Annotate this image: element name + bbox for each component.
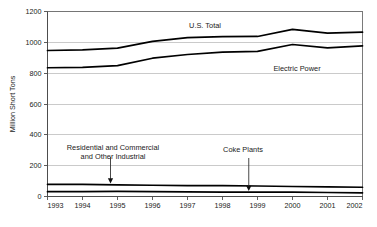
x-tick-label-1993: 1993: [48, 201, 64, 210]
y-tick-label-1200: 1200: [26, 7, 42, 16]
y-tick-label-600: 600: [30, 100, 42, 109]
y-tick-label-200: 200: [30, 161, 42, 170]
annotation-coke-plants-line1: Coke Plants: [223, 145, 263, 154]
annotation-residential-commercial-line2: and Other Industrial: [81, 152, 146, 161]
x-tick-label-2002: 2002: [347, 201, 363, 210]
x-tick-label-1998: 1998: [215, 201, 231, 210]
y-tick-label-0: 0: [38, 192, 42, 201]
x-tick-label-1995: 1995: [110, 201, 126, 210]
x-tick-label-1999: 1999: [250, 201, 266, 210]
x-tick-label-2000: 2000: [285, 201, 301, 210]
chart-canvas: 020040060080010001200 199319941995199619…: [0, 0, 377, 227]
coal-consumption-line-chart: 020040060080010001200 199319941995199619…: [0, 0, 377, 227]
y-tick-label-800: 800: [30, 69, 42, 78]
annotation-residential-commercial-line1: Residential and Commercial: [67, 143, 160, 152]
x-tick-label-2001: 2001: [320, 201, 336, 210]
y-tick-label-400: 400: [30, 130, 42, 139]
x-tick-label-1997: 1997: [180, 201, 196, 210]
y-axis-title: Million Short Tons: [8, 75, 17, 132]
y-tick-label-1000: 1000: [26, 38, 42, 47]
x-tick-label-1996: 1996: [145, 201, 161, 210]
series-label-electric-power: Electric Power: [273, 64, 321, 73]
x-tick-label-1994: 1994: [75, 201, 91, 210]
series-label-us-total: U.S. Total: [189, 21, 221, 30]
